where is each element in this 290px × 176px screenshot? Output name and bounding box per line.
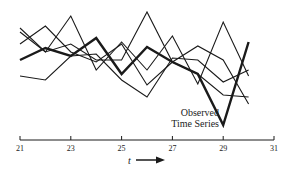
x-tick-label: 25 bbox=[118, 144, 126, 153]
annotation-time-series: Time Series bbox=[171, 118, 219, 129]
x-axis-ticks: 212325272931 bbox=[16, 136, 278, 153]
x-tick-label: 27 bbox=[168, 144, 176, 153]
x-tick-label: 21 bbox=[16, 144, 24, 153]
time-series-chart: 212325272931 Observed Time Series t bbox=[0, 0, 290, 176]
x-tick-label: 29 bbox=[219, 144, 227, 153]
right-arrow-icon bbox=[136, 157, 165, 164]
annotation-observed: Observed bbox=[181, 107, 219, 118]
realization-series-line bbox=[20, 26, 249, 104]
x-tick-label: 31 bbox=[270, 144, 278, 153]
x-tick-label: 23 bbox=[67, 144, 75, 153]
x-axis-label: t bbox=[128, 155, 131, 166]
